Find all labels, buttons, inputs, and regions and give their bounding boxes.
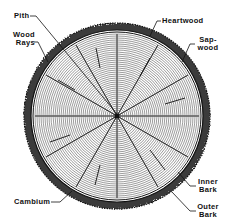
label-wood-rays: Wood Rays bbox=[13, 31, 35, 47]
label-heartwood: Heartwood bbox=[162, 17, 203, 25]
pith bbox=[115, 114, 120, 119]
label-outer-bark: Outer Bark bbox=[197, 203, 219, 219]
label-inner-bark: Inner Bark bbox=[197, 178, 219, 194]
tree-cross-section-diagram: Pith Wood Rays Heartwood Sap- wood Inner… bbox=[0, 0, 232, 223]
label-cambium: Cambium bbox=[14, 198, 50, 206]
label-pith: Pith bbox=[14, 12, 29, 20]
label-sapwood: Sap- wood bbox=[197, 36, 219, 52]
